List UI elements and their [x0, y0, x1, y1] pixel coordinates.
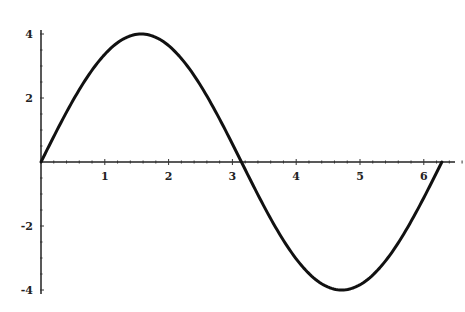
y-tick-label: -2	[21, 220, 33, 233]
x-tick-label: 3	[229, 170, 237, 183]
axes	[41, 30, 455, 294]
y-tick-label: 2	[25, 92, 33, 105]
x-tick-label: 4	[292, 170, 300, 183]
x-tick-label: 5	[356, 170, 364, 183]
x-tick-label: 1	[101, 170, 109, 183]
x-tick-label: 2	[165, 170, 173, 183]
y-tick-label: -4	[21, 284, 34, 297]
x-tick-label: 6	[420, 170, 428, 183]
y-tick-label: 4	[25, 28, 33, 41]
sine-plot: 123456-4-224	[0, 0, 465, 312]
